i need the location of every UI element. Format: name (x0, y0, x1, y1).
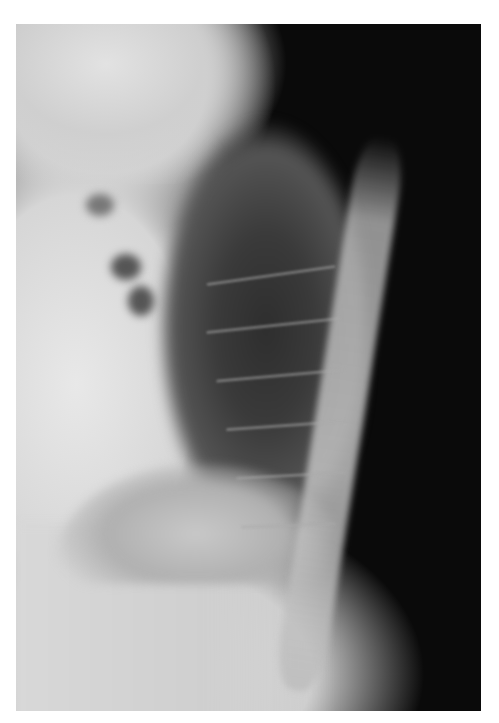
hilar-shadow (128, 286, 154, 316)
hilar-shadow (111, 254, 141, 280)
hilar-shadow (86, 194, 114, 216)
radiograph-film (16, 24, 481, 711)
